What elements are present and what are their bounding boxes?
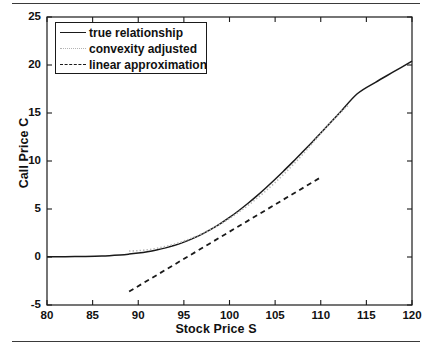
series-layer [47,61,412,291]
x-tick-label: 100 [210,309,250,321]
legend: true relationship convexity adjusted lin… [55,22,207,74]
x-tick-label: 120 [392,309,432,321]
series-line [129,177,321,291]
x-tick-label: 110 [301,309,341,321]
y-tick-label: 0 [7,250,41,262]
x-tick-label: 90 [118,309,158,321]
series-line [129,105,348,251]
legend-item-true-relationship: true relationship [60,25,183,41]
x-tick-label: 95 [164,309,204,321]
x-tick-label: 80 [27,309,67,321]
x-tick-label: 115 [346,309,386,321]
legend-item-linear-approximation: linear approximation [60,57,207,73]
x-tick-label: 105 [255,309,295,321]
x-tick-label: 85 [73,309,113,321]
x-axis-label: Stock Price S [0,322,432,336]
y-tick-label: 20 [7,58,41,70]
legend-line-sample-dotted-icon [60,43,86,55]
legend-item-convexity-adjusted: convexity adjusted [60,41,197,57]
legend-label: convexity adjusted [89,43,197,55]
y-tick-label: -5 [7,298,41,310]
y-axis-label: Call Price C [17,93,31,213]
figure-container: 80859095100105110115120 -50510152025 Sto… [0,0,432,352]
legend-label: linear approximation [89,59,207,71]
series-line [47,61,412,257]
legend-label: true relationship [89,27,183,39]
legend-line-sample-solid-icon [60,27,86,39]
y-tick-label: 25 [7,10,41,22]
legend-line-sample-dashed-icon [60,59,86,71]
